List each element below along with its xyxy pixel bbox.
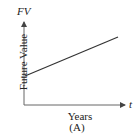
chart-caption: (A) (62, 121, 92, 133)
future-value-line (25, 37, 118, 76)
y-axis-symbol: FV (17, 5, 30, 17)
x-axis-symbol: t (129, 98, 132, 110)
y-axis-label: Future Value (17, 27, 29, 97)
